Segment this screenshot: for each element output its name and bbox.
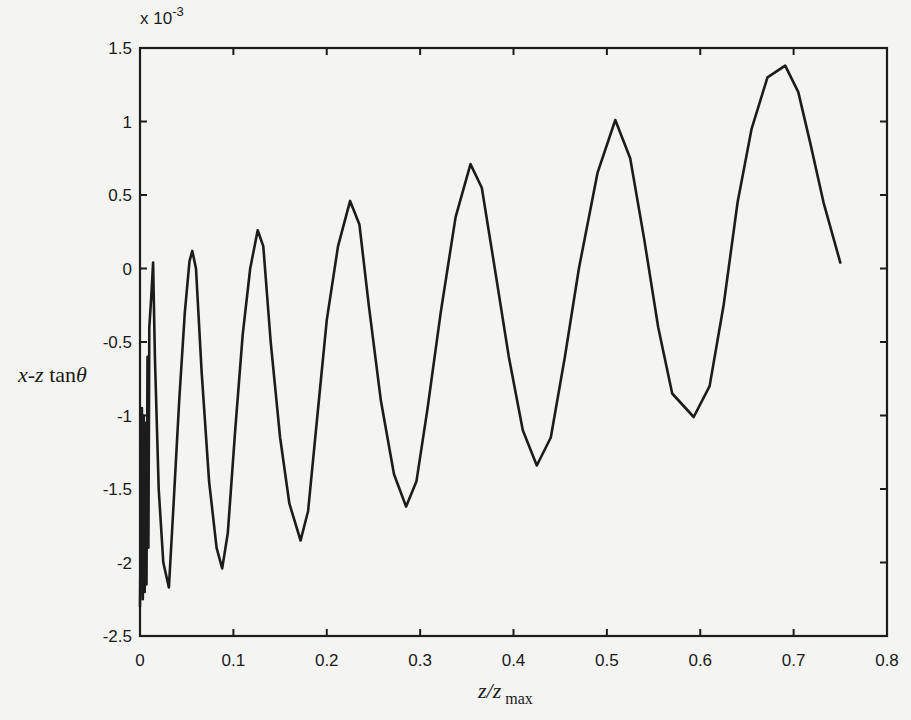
- series-group: [140, 66, 840, 607]
- y-tick-label: 1: [123, 113, 132, 132]
- y-tick-label: 0: [123, 260, 132, 279]
- y-tick-label: 0.5: [108, 186, 132, 205]
- x-axis-tick-labels: 00.10.20.30.40.50.60.70.8: [135, 651, 899, 670]
- y-tick-label: 1.5: [108, 39, 132, 58]
- x-tick-label: 0.1: [222, 651, 246, 670]
- x-tick-label: 0.8: [875, 651, 899, 670]
- y-axis-tick-labels: 1.510.50-0.5-1-1.5-2-2.5: [103, 39, 132, 646]
- y-axis-ticks: [140, 48, 887, 636]
- y-tick-label: -1: [117, 407, 132, 426]
- y-tick-label: -0.5: [103, 333, 132, 352]
- y-axis-label-italic: x-z: [17, 362, 44, 387]
- y-axis-label-theta: θ: [76, 362, 87, 387]
- x-axis-ticks: [140, 48, 887, 636]
- x-tick-label: 0.2: [315, 651, 339, 670]
- chart-canvas: 00.10.20.30.40.50.60.70.8 1.510.50-0.5-1…: [0, 0, 911, 720]
- y-axis-label: x-z tanθ: [17, 362, 87, 387]
- x-tick-label: 0.6: [688, 651, 712, 670]
- x-tick-label: 0.7: [782, 651, 806, 670]
- x-axis-label-main: z/z: [477, 678, 502, 703]
- y-tick-label: -2.5: [103, 627, 132, 646]
- x-tick-label: 0: [135, 651, 144, 670]
- x-tick-label: 0.3: [408, 651, 432, 670]
- y-axis-label-roman: tan: [44, 362, 76, 387]
- plot-border: [140, 48, 887, 636]
- x-axis-label-subscript: max: [505, 690, 533, 707]
- y-multiplier-base: x 10: [140, 9, 172, 28]
- y-tick-label: -1.5: [103, 480, 132, 499]
- y-multiplier-exponent: -3: [172, 4, 184, 19]
- y-multiplier-label: x 10-3: [140, 4, 184, 28]
- plot-frame: [140, 48, 887, 636]
- x-tick-label: 0.5: [595, 651, 619, 670]
- x-tick-label: 0.4: [502, 651, 526, 670]
- y-tick-label: -2: [117, 554, 132, 573]
- series-line: [140, 66, 840, 607]
- x-axis-label: z/zmax: [477, 678, 533, 707]
